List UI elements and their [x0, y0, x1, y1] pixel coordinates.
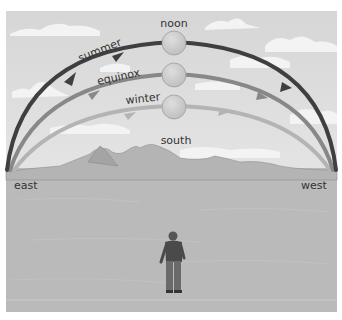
sun-equinox-noon	[162, 63, 186, 87]
sun-summer-noon	[162, 31, 186, 55]
sun-path-diagram: noon summer equinox winter south east we…	[0, 0, 342, 320]
label-east: east	[14, 179, 38, 192]
sun-winter-noon	[162, 95, 186, 119]
label-noon: noon	[160, 17, 187, 30]
label-west: west	[301, 179, 327, 192]
label-south: south	[161, 134, 192, 147]
